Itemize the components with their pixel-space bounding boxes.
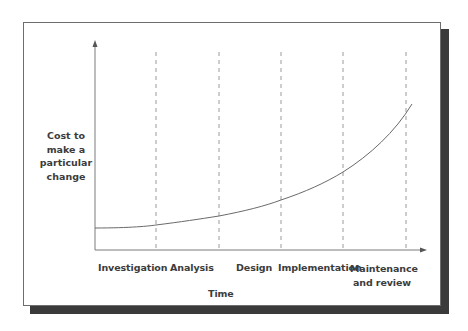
- y-axis-label-line-2: make a: [38, 143, 94, 157]
- x-axis-arrow-icon: [420, 248, 427, 253]
- y-axis-label: Cost to make a particular change: [38, 129, 94, 183]
- y-axis-label-line-3: particular: [38, 156, 94, 170]
- phase-label-investigation: Investigation: [98, 262, 167, 273]
- phase-label-maintenance: Maintenance and review: [350, 262, 414, 290]
- y-axis-label-line-1: Cost to: [38, 129, 94, 143]
- phase-label-maintenance-line-2: and review: [350, 276, 414, 290]
- cost-curve: [95, 104, 412, 228]
- y-axis-label-line-4: change: [38, 170, 94, 184]
- phase-label-design: Design: [236, 262, 272, 273]
- y-axis-arrow-icon: [93, 40, 98, 47]
- phase-label-analysis: Analysis: [170, 262, 214, 273]
- x-axis-label: Time: [208, 288, 234, 299]
- phase-label-maintenance-line-1: Maintenance: [350, 262, 414, 276]
